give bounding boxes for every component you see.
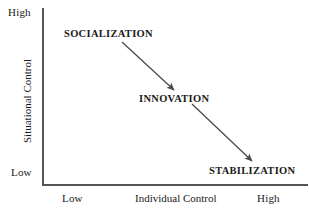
- stage-label-innovation: INNOVATION: [139, 93, 209, 104]
- stage-label-socialization: SOCIALIZATION: [64, 28, 153, 39]
- arrow-layer: [0, 0, 309, 213]
- x-axis-line: [42, 184, 308, 186]
- arrow-innovation-to-stabilization: [192, 104, 252, 161]
- situational-control-diagram: High Low Situational Control Low Individ…: [0, 0, 309, 213]
- stage-label-stabilization: STABILIZATION: [209, 165, 295, 176]
- y-axis-low-label: Low: [11, 166, 32, 178]
- x-axis-title: Individual Control: [135, 192, 217, 204]
- y-axis-line: [42, 8, 44, 186]
- y-axis-title: Situational Control: [21, 41, 33, 161]
- y-axis-high-label: High: [8, 6, 31, 18]
- x-axis-high-label: High: [257, 192, 280, 204]
- arrow-socialization-to-innovation: [122, 42, 174, 90]
- x-axis-low-label: Low: [62, 192, 83, 204]
